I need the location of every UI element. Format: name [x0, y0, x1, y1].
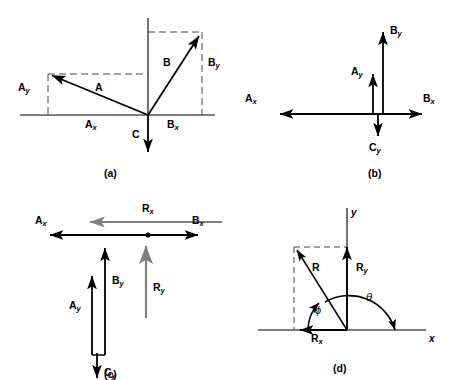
vector-c-label: C [132, 129, 140, 140]
panel-c: Ax Bx Rx By Ay Cy Ry (c) [0, 190, 230, 380]
vector-rx-label: Rx [142, 203, 154, 215]
panel-d: R Ry Rx ϕ θ y x (d) [230, 190, 451, 380]
vector-b-label: B [163, 57, 171, 68]
vector-ax-label: Ax [245, 93, 257, 105]
vector-ax-label: Ax [35, 215, 47, 227]
vector-cy-label: Cy [369, 142, 381, 154]
panel-d-graphic [230, 190, 451, 380]
vector-ry-label: Ry [356, 262, 368, 274]
panel-a-graphic [0, 0, 230, 185]
vector-ay-label: Ay [69, 300, 81, 312]
panel-b-caption: (b) [368, 167, 381, 179]
vector-ry-label: Ry [153, 282, 165, 294]
vector-r [297, 250, 347, 330]
vector-a-label: A [95, 82, 103, 93]
vector-bx-label: Bx [167, 119, 179, 131]
vector-ax-label: Ax [85, 119, 97, 131]
axis-x-label: x [429, 333, 435, 344]
junction-dot [145, 232, 150, 237]
vector-by-label: By [208, 57, 220, 69]
axis-y-label: y [351, 207, 357, 218]
vector-r-label: R [312, 262, 320, 273]
vector-by-label: By [390, 25, 402, 37]
vector-ay-label: Ay [18, 82, 30, 94]
panel-a: Ay A Ax B By Bx C (a) [0, 0, 230, 185]
angle-phi-label: ϕ [315, 304, 321, 316]
panel-d-caption: (d) [333, 362, 346, 374]
vector-by-label: By [112, 275, 124, 287]
vector-b [148, 36, 199, 115]
panel-b-graphic [230, 0, 451, 185]
vector-rx-label: Rx [311, 333, 323, 345]
angle-theta-label: θ [366, 291, 372, 303]
panel-a-caption: (a) [104, 167, 117, 179]
vector-ay-label: Ay [351, 66, 363, 78]
panel-c-caption: (c) [104, 368, 117, 380]
vector-bx-label: Bx [192, 215, 204, 227]
vector-bx-label: Bx [423, 93, 435, 105]
panel-b: Ax Bx By Ay Cy (b) [230, 0, 451, 185]
